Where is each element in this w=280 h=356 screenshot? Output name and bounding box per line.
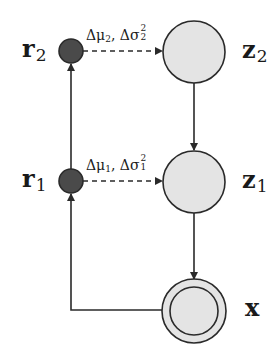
label-r1-subscript: 1 (36, 175, 47, 195)
sigma-supsub-2: 22 (141, 24, 147, 42)
label-r2: r2 (22, 37, 46, 64)
label-r1-symbol: r (22, 164, 35, 193)
label-z2: z2 (242, 38, 267, 65)
edge-x-to-r1 (71, 194, 162, 310)
label-separator: , (111, 27, 120, 43)
node-z2 (163, 21, 225, 83)
edge-label-r1-z1: Δμ1, Δσ21 (86, 157, 146, 175)
label-z1: z1 (242, 168, 267, 195)
sigma-subscript: 1 (141, 163, 147, 172)
label-x: x (245, 296, 259, 320)
label-r2-subscript: 2 (36, 45, 47, 65)
delta-sigma-2: Δσ (120, 27, 140, 43)
node-z1 (163, 151, 225, 213)
delta-mu-1: Δμ (86, 157, 105, 173)
sigma-supsub-1: 21 (141, 154, 147, 172)
delta-sigma-1: Δσ (120, 157, 140, 173)
edge-label-r2-z2: Δμ2, Δσ22 (86, 27, 146, 45)
label-separator: , (111, 157, 120, 173)
label-x-symbol: x (245, 293, 259, 322)
node-r2 (59, 39, 83, 63)
label-z1-symbol: z (242, 165, 256, 194)
sigma-subscript: 2 (141, 33, 147, 42)
node-r1 (59, 169, 83, 193)
label-r1: r1 (22, 167, 46, 194)
label-r2-symbol: r (22, 34, 35, 63)
delta-mu-2: Δμ (86, 27, 105, 43)
node-x-inner (170, 287, 218, 335)
label-z2-subscript: 2 (257, 46, 268, 66)
label-z2-symbol: z (242, 35, 256, 64)
label-z1-subscript: 1 (257, 176, 268, 196)
